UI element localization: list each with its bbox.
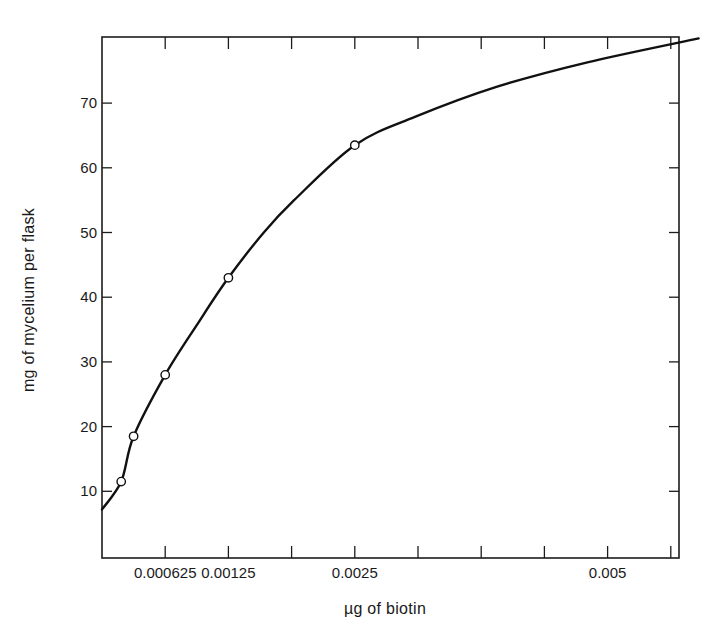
axis-ticks — [102, 37, 679, 558]
data-point — [351, 141, 359, 149]
y-tick-label: 30 — [80, 353, 97, 370]
x-tick-label: 0.000625 — [134, 564, 197, 581]
y-axis-label: mg of mycelium per flask — [20, 207, 37, 392]
x-tick-label: 0.005 — [589, 564, 627, 581]
data-point — [129, 432, 137, 440]
x-tick-labels: 0.0006250.001250.00250.005 — [134, 564, 626, 581]
x-tick-label: 0.00125 — [201, 564, 255, 581]
x-tick-label: 0.0025 — [332, 564, 378, 581]
data-point — [117, 477, 125, 485]
y-tick-label: 50 — [80, 224, 97, 241]
x-axis-label: µg of biotin — [344, 600, 426, 617]
data-point — [224, 274, 232, 282]
plot-frame — [102, 37, 679, 558]
y-tick-label: 70 — [80, 94, 97, 111]
fitted-curve — [102, 38, 699, 509]
y-tick-label: 40 — [80, 288, 97, 305]
data-points — [117, 141, 359, 486]
y-tick-label: 20 — [80, 418, 97, 435]
y-tick-label: 10 — [80, 482, 97, 499]
chart: 0.0006250.001250.00250.005 1020304050607… — [0, 0, 707, 641]
data-point — [161, 371, 169, 379]
y-tick-label: 60 — [80, 159, 97, 176]
y-tick-labels: 10203040506070 — [80, 94, 97, 499]
